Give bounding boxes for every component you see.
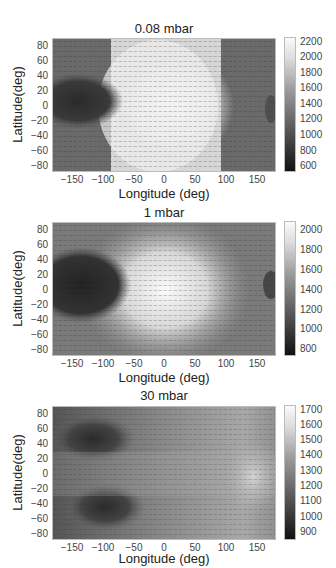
y-tick: 0 — [18, 100, 48, 111]
y-tick: 20 — [18, 453, 48, 464]
colorbar-tick: 2000 — [300, 51, 322, 62]
y-tick: −80 — [18, 344, 48, 355]
y-tick: −60 — [18, 145, 48, 156]
y-tick: 60 — [18, 423, 48, 434]
y-tick: −60 — [18, 513, 48, 524]
colorbar-tick: 1000 — [300, 323, 322, 334]
y-tick: −80 — [18, 528, 48, 539]
colorbar-tick: 1600 — [300, 419, 322, 430]
colorbar-tick: 1400 — [300, 449, 322, 460]
chart-title: 0.08 mbar — [52, 21, 276, 36]
y-tick: −40 — [18, 498, 48, 509]
colorbar-tick: 900 — [300, 526, 317, 537]
colorbar-tick: 1800 — [300, 67, 322, 78]
colorbar-tick: 1300 — [300, 465, 322, 476]
y-tick: −20 — [18, 115, 48, 126]
panel-0.08-mbar: 0.08 mbar Latitude(deg) 80 60 40 20 0 −2 — [0, 0, 336, 188]
y-tick: 0 — [18, 468, 48, 479]
y-tick: −20 — [18, 483, 48, 494]
colorbar-tick: 1000 — [300, 511, 322, 522]
colorbar-tick: 1200 — [300, 304, 322, 315]
panel-30-mbar: 30 mbar Latitude(deg) 80 6 — [0, 368, 336, 556]
y-tick: 80 — [18, 40, 48, 51]
colorbar-tick: 1000 — [300, 129, 322, 140]
colorbar-tick: 600 — [300, 160, 317, 171]
colorbar-tick: 1200 — [300, 113, 322, 124]
colorbar — [284, 37, 296, 172]
colorbar-tick: 1400 — [300, 98, 322, 109]
colorbar-tick: 1600 — [300, 82, 322, 93]
colorbar-tick: 1600 — [300, 264, 322, 275]
y-tick: 40 — [18, 254, 48, 265]
y-tick: 20 — [18, 85, 48, 96]
heatmap-plot — [52, 222, 276, 356]
heatmap-plot — [52, 38, 276, 172]
y-tick: −40 — [18, 314, 48, 325]
chart-title: 1 mbar — [52, 205, 276, 220]
y-tick: −20 — [18, 299, 48, 310]
chart-title: 30 mbar — [52, 388, 276, 403]
colorbar-tick: 2200 — [300, 36, 322, 47]
panel-1-mbar: 1 mbar Latitude(deg) 80 60 40 20 0 −20 −… — [0, 184, 336, 372]
y-tick: −60 — [18, 329, 48, 340]
y-tick: −40 — [18, 130, 48, 141]
colorbar-tick: 1800 — [300, 244, 322, 255]
y-tick: 40 — [18, 70, 48, 81]
colorbar — [284, 405, 296, 540]
y-tick: 40 — [18, 438, 48, 449]
colorbar-tick: 800 — [300, 343, 317, 354]
y-tick: 60 — [18, 55, 48, 66]
colorbar-tick: 2000 — [300, 224, 322, 235]
y-tick: 0 — [18, 284, 48, 295]
colorbar — [284, 221, 296, 356]
colorbar-tick: 1500 — [300, 434, 322, 445]
colorbar-tick: 1200 — [300, 480, 322, 491]
colorbar-tick: 1700 — [300, 404, 322, 415]
y-tick: 60 — [18, 239, 48, 250]
y-tick: −80 — [18, 160, 48, 171]
y-tick: 80 — [18, 224, 48, 235]
y-tick: 80 — [18, 408, 48, 419]
heatmap-plot — [52, 406, 276, 540]
colorbar-tick: 1100 — [300, 495, 322, 506]
colorbar-tick: 800 — [300, 145, 317, 156]
x-axis-label: Longitude (deg) — [52, 551, 276, 566]
y-tick: 20 — [18, 269, 48, 280]
colorbar-tick: 1400 — [300, 284, 322, 295]
